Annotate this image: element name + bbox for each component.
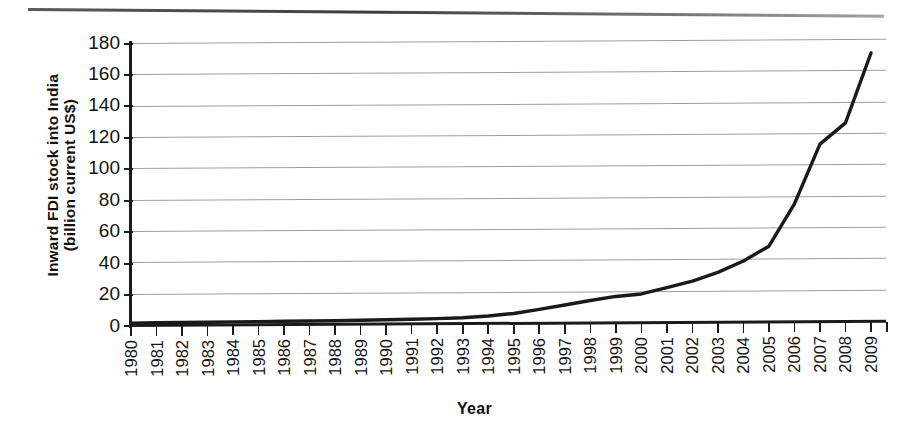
gridline (131, 258, 886, 263)
x-tick-label: 2007 (812, 336, 829, 373)
x-axis-tick (845, 322, 847, 332)
x-tick-label: 2000 (633, 337, 650, 374)
gridline (131, 195, 886, 200)
x-axis-tick (743, 323, 745, 333)
x-tick-label: 1981 (149, 340, 166, 377)
y-axis-tick (124, 263, 133, 265)
y-axis-tick (124, 294, 133, 296)
y-tick-label: 60 (99, 221, 120, 240)
x-axis-tick (870, 322, 872, 332)
x-tick-label: 2009 (863, 336, 880, 373)
x-tick-label: 1995 (506, 338, 523, 375)
y-axis-tick-labels: 180 160 140 120 100 80 60 40 20 0 (62, 33, 120, 333)
x-tick-label: 1989 (353, 339, 370, 376)
x-axis-tick (615, 323, 617, 333)
x-axis-tick (283, 325, 285, 335)
x-axis-tick (819, 322, 821, 332)
y-axis-tick (124, 137, 133, 139)
x-axis-tick (436, 324, 438, 334)
y-axis-tick (124, 105, 133, 107)
x-axis-tick (717, 323, 719, 333)
x-axis-tick (513, 324, 515, 334)
x-tick-label: 1982 (174, 340, 191, 377)
x-axis-end-tick (886, 322, 888, 332)
x-tick-label: 1986 (276, 339, 293, 376)
x-tick-label: 1987 (302, 339, 319, 376)
x-axis-title-text: Year (457, 400, 492, 418)
x-axis-title: Year (0, 400, 901, 418)
x-tick-label: 1983 (200, 340, 217, 377)
y-tick-label: 0 (109, 316, 120, 335)
y-axis-tick (124, 231, 133, 233)
gridline (131, 133, 886, 138)
x-axis-tick (692, 323, 694, 333)
x-tick-label: 1985 (251, 339, 268, 376)
x-axis-tick (666, 323, 668, 333)
x-axis-tick (462, 324, 464, 334)
y-axis-line (129, 41, 132, 328)
x-axis-tick (156, 326, 158, 336)
x-axis-tick (309, 325, 311, 335)
figure: Inward FDI stock into India (billion cur… (0, 0, 901, 439)
y-tick-label: 160 (88, 64, 120, 83)
x-axis-tick-labels: 1980198119821983198419851986198719881989… (0, 338, 901, 400)
x-tick-label: 1988 (327, 339, 344, 376)
y-axis-tick (124, 74, 133, 76)
x-axis-tick (130, 326, 132, 336)
y-tick-label: 180 (88, 33, 120, 52)
x-tick-label: 1992 (429, 338, 446, 375)
x-tick-label: 1999 (608, 337, 625, 374)
y-tick-label: 140 (88, 95, 120, 114)
x-axis-tick (564, 324, 566, 334)
x-tick-label: 2004 (735, 337, 752, 374)
x-axis-tick (385, 325, 387, 335)
y-tick-label: 100 (88, 158, 120, 177)
gridline (131, 101, 886, 106)
gridline (131, 227, 886, 232)
x-axis-tick (258, 325, 260, 335)
y-tick-label: 40 (99, 253, 120, 272)
x-axis-tick (768, 322, 770, 332)
x-axis-tick (360, 325, 362, 335)
plot-area (131, 43, 886, 325)
x-axis-tick (232, 325, 234, 335)
x-axis-tick (487, 324, 489, 334)
gridline (131, 164, 886, 169)
y-tick-label: 80 (99, 190, 120, 209)
x-axis-tick (334, 325, 336, 335)
x-tick-label: 2005 (761, 336, 778, 373)
gridline (131, 289, 886, 294)
x-axis-tick (641, 323, 643, 333)
x-tick-label: 1997 (557, 338, 574, 375)
y-axis-tick (124, 168, 133, 170)
x-axis-tick (181, 326, 183, 336)
x-tick-label: 1998 (582, 337, 599, 374)
x-tick-label: 2006 (786, 336, 803, 373)
gridline (131, 70, 886, 75)
x-axis-tick (590, 323, 592, 333)
x-tick-label: 2003 (710, 337, 727, 374)
x-axis-tick (538, 324, 540, 334)
x-tick-label: 1993 (455, 338, 472, 375)
y-tick-label: 120 (88, 127, 120, 146)
x-tick-label: 1990 (378, 339, 395, 376)
scan-artifact-rule (28, 8, 884, 18)
x-tick-label: 2008 (837, 336, 854, 373)
x-tick-label: 2001 (659, 337, 676, 374)
x-axis-tick (411, 324, 413, 334)
gridline (131, 39, 886, 44)
x-axis-tick (794, 322, 796, 332)
y-axis-title-line-1: Inward FDI stock into India (45, 74, 61, 277)
x-tick-label: 1991 (404, 338, 421, 375)
x-tick-label: 1984 (225, 339, 242, 376)
y-axis-tick (124, 200, 133, 202)
y-axis-tick (124, 43, 133, 45)
x-tick-label: 1994 (480, 338, 497, 375)
x-axis-tick (207, 326, 209, 336)
y-tick-label: 20 (99, 284, 120, 303)
x-tick-label: 2002 (684, 337, 701, 374)
x-tick-label: 1980 (123, 340, 140, 377)
x-tick-label: 1996 (531, 338, 548, 375)
